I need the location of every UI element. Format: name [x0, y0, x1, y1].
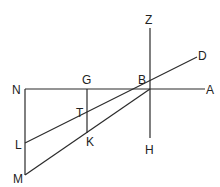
label-M: M: [13, 172, 23, 186]
label-Z: Z: [145, 13, 152, 27]
label-H: H: [145, 143, 154, 157]
label-G: G: [82, 73, 91, 87]
label-K: K: [86, 135, 94, 149]
line-LD: [25, 57, 197, 143]
label-N: N: [12, 83, 21, 97]
label-A: A: [206, 83, 214, 97]
label-T: T: [76, 106, 84, 120]
label-L: L: [15, 138, 22, 152]
geometry-diagram: N G B A Z D H T L K M: [0, 0, 220, 187]
label-D: D: [198, 49, 207, 63]
label-B: B: [138, 73, 146, 87]
